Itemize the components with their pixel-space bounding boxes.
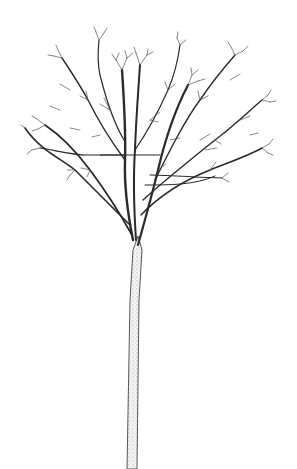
trunk — [127, 236, 142, 469]
tree-illustration — [0, 0, 297, 469]
main-branches — [25, 40, 262, 245]
